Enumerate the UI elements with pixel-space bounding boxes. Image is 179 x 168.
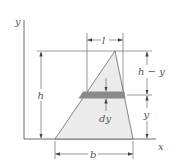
b-label: b [90, 149, 96, 160]
y-axis-label: y [14, 16, 21, 27]
diagram: y x l h h − y y dy b [0, 0, 179, 168]
x-axis-label: x [158, 141, 164, 152]
dy-label: dy [99, 113, 111, 124]
differential-strip [79, 92, 126, 99]
y-segment-label: y [143, 109, 150, 120]
h-label: h [38, 90, 44, 101]
l-label: l [102, 35, 105, 46]
h-minus-y-label: h − y [138, 66, 165, 77]
